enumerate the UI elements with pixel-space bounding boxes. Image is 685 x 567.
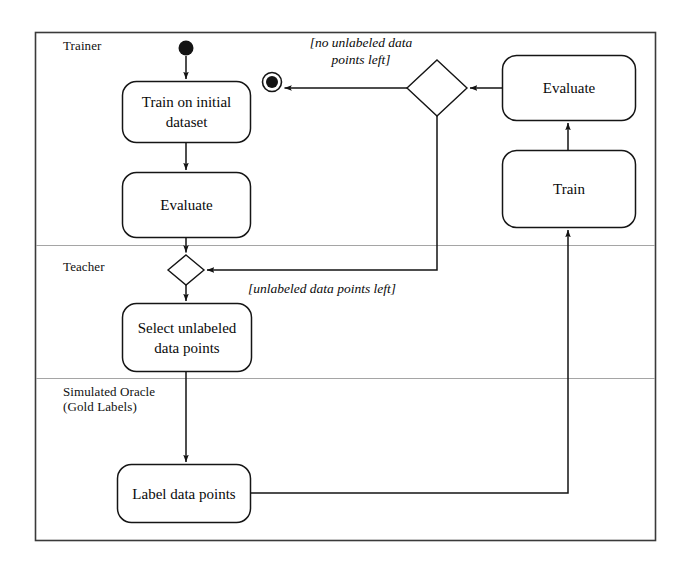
final-node-inner-dot	[266, 76, 278, 88]
action-evaluate-right[interactable]: Evaluate	[502, 55, 636, 121]
decision-node-shape	[407, 60, 467, 116]
guard-label-no-unlabeled-data-points-left: [no unlabeled data points left]	[285, 34, 437, 68]
swimlane-title-trainer: Trainer	[63, 38, 102, 53]
initial-node-shape	[179, 41, 194, 56]
guard-label-unlabeled-data-points-left: [unlabeled data points left]	[248, 280, 448, 297]
activity-diagram-canvas: Trainer Teacher Simulated Oracle (Gold L…	[0, 0, 685, 567]
action-train-on-initial-dataset[interactable]: Train on initial dataset	[122, 81, 251, 143]
action-select-unlabeled-data-points[interactable]: Select unlabeled data points	[122, 303, 252, 372]
swimlane-title-teacher: Teacher	[63, 259, 105, 274]
edge-decision-to-final-tip	[282, 83, 288, 85]
action-train-right[interactable]: Train	[502, 150, 636, 228]
merge-node-shape	[168, 255, 204, 285]
action-label-data-points[interactable]: Label data points	[117, 464, 251, 523]
action-evaluate-left[interactable]: Evaluate	[122, 172, 251, 238]
swimlane-title-simulated-oracle: Simulated Oracle (Gold Labels)	[63, 384, 155, 414]
